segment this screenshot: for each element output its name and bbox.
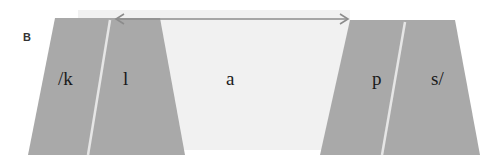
segment-a: a [226, 68, 235, 89]
phonetic-diagram: B /k l a p s/ [0, 0, 502, 165]
segment-l: l [123, 68, 128, 89]
segment-p: p [372, 68, 382, 89]
segment-s: s/ [431, 68, 444, 89]
panel-label: B [23, 31, 31, 43]
segment-k: /k [58, 68, 73, 89]
